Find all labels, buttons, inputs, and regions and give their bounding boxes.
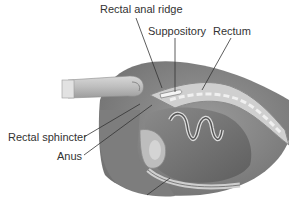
label-anus: Anus: [57, 150, 82, 162]
sphincter-muscle: [149, 140, 161, 160]
label-rectum: Rectum: [213, 25, 251, 37]
gloved-finger: [68, 76, 143, 98]
label-suppository: Suppository: [148, 25, 206, 37]
glove-cuff: [62, 80, 74, 98]
label-rectal-sphincter: Rectal sphincter: [8, 131, 87, 143]
label-rectal-anal-ridge: Rectal anal ridge: [100, 3, 183, 15]
